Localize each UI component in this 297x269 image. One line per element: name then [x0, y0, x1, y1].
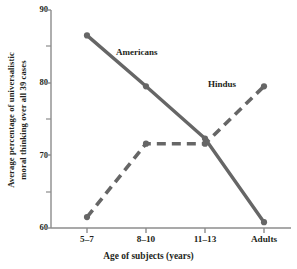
x-tick-3-label: Adults	[234, 234, 294, 244]
americans-point-1	[143, 83, 149, 89]
americans-line	[87, 35, 264, 222]
series-label-hindus: Hindus	[208, 79, 236, 89]
x-tick-1-label: 8–10	[116, 234, 176, 244]
hindus-line	[87, 86, 264, 217]
series-hindus	[84, 83, 267, 220]
hindus-point-0	[84, 214, 90, 220]
x-axis-title: Age of subjects (years)	[0, 251, 297, 261]
hindus-point-1	[143, 141, 149, 147]
hindus-point-3	[261, 83, 267, 89]
americans-point-0	[84, 32, 90, 38]
series-americans	[84, 32, 267, 225]
line-chart-figure: Average percentage of universalistic mor…	[0, 0, 297, 269]
series-label-americans: Americans	[116, 47, 158, 57]
x-tick-0-label: 5–7	[57, 234, 117, 244]
plot-area	[0, 0, 297, 269]
americans-point-3	[261, 219, 267, 225]
americans-point-2	[202, 136, 208, 142]
x-tick-2-label: 11–13	[175, 234, 235, 244]
